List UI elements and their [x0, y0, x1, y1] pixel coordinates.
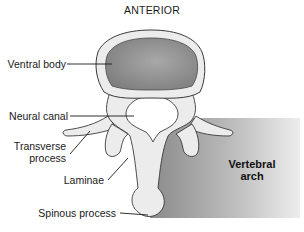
label-transverse-process-line2: process	[4, 152, 66, 164]
ventral-body	[106, 38, 198, 90]
label-spinous-process: Spinous process	[20, 207, 116, 219]
label-ventral-body: Ventral body	[6, 58, 66, 70]
label-laminae: Laminae	[40, 174, 104, 186]
region-label-vertebral: Vertebral	[210, 158, 294, 170]
vertebra-diagram: ANTERIOR Ventral body Neural canal Trans…	[0, 0, 304, 232]
label-transverse-process-line1: Transverse	[4, 140, 66, 152]
region-label-arch: arch	[210, 170, 294, 182]
leader-laminae	[108, 158, 128, 180]
orientation-label-anterior: ANTERIOR	[0, 4, 304, 16]
label-neural-canal: Neural canal	[4, 110, 68, 122]
